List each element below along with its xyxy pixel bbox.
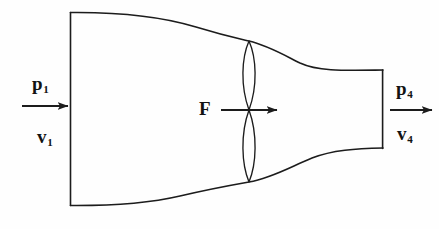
- diagram-canvas: [0, 0, 439, 229]
- valve-lower-lens: [243, 110, 255, 182]
- force-symbol: F: [199, 98, 211, 119]
- inlet-pressure-label: p1: [32, 74, 48, 93]
- duct-valve-diagram: p1 v1 F p4 v4: [0, 0, 439, 229]
- duct-top-wall: [71, 12, 384, 70]
- outlet-pressure-symbol: p: [396, 78, 407, 99]
- inlet-velocity-symbol: v: [37, 126, 47, 147]
- outlet-pressure-label: p4: [396, 79, 412, 98]
- inlet-pressure-subscript: 1: [43, 83, 49, 95]
- inlet-velocity-subscript: 1: [47, 136, 53, 148]
- inlet-velocity-label: v1: [37, 127, 52, 146]
- outlet-velocity-label: v4: [397, 124, 412, 143]
- duct-bottom-wall: [71, 148, 384, 206]
- outlet-velocity-subscript: 4: [407, 133, 413, 145]
- force-label: F: [199, 99, 211, 118]
- outlet-pressure-subscript: 4: [407, 88, 413, 100]
- outlet-velocity-symbol: v: [397, 123, 407, 144]
- valve-upper-lens: [243, 41, 255, 110]
- inlet-pressure-symbol: p: [32, 73, 43, 94]
